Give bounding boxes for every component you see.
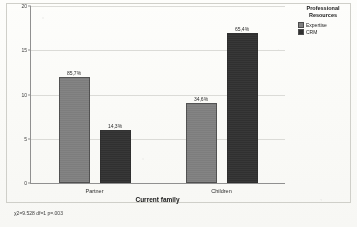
expertise-swatch-icon bbox=[298, 22, 304, 28]
legend-title-line-1: Professional bbox=[292, 5, 354, 12]
y-axis-tick-mark bbox=[28, 50, 31, 51]
y-axis-tick-label: 5 bbox=[24, 136, 27, 142]
bar-crm-partner[interactable]: 14,3% bbox=[100, 130, 131, 183]
legend-item-expertise[interactable]: Expertise bbox=[298, 22, 354, 28]
bar-value-label: 65,4% bbox=[235, 26, 249, 32]
y-axis-tick-mark bbox=[28, 183, 31, 184]
bar-crm-children[interactable]: 65,4% bbox=[227, 33, 258, 183]
bar-chart: 0510152085,7%14,3%Partner34,6%65,4%Child… bbox=[0, 0, 357, 227]
plot-area: 0510152085,7%14,3%Partner34,6%65,4%Child… bbox=[30, 6, 285, 184]
legend-item-label: CRM bbox=[306, 29, 317, 35]
y-axis-tick-label: 10 bbox=[21, 92, 27, 98]
y-axis-tick-mark bbox=[28, 138, 31, 139]
legend-title-line-2: Resources bbox=[292, 12, 354, 19]
bar-value-label: 85,7% bbox=[67, 70, 81, 76]
bar-value-label: 34,6% bbox=[194, 96, 208, 102]
legend-title: Professional Resources bbox=[292, 5, 354, 19]
y-axis-tick-label: 15 bbox=[21, 47, 27, 53]
legend-item-crm[interactable]: CRM bbox=[298, 29, 354, 35]
y-axis-tick-label: 0 bbox=[24, 180, 27, 186]
bar-value-label: 14,3% bbox=[108, 123, 122, 129]
x-axis-tick-label: Partner bbox=[85, 188, 103, 194]
y-axis-tick-label: 20 bbox=[21, 3, 27, 9]
bar-expertise-children[interactable]: 34,6% bbox=[186, 103, 217, 183]
x-axis-title: Current family bbox=[30, 196, 285, 203]
y-axis-tick-mark bbox=[28, 6, 31, 7]
statistics-footnote: χ2=9.528 df=1 p=.003 bbox=[14, 210, 63, 216]
bar-expertise-partner[interactable]: 85,7% bbox=[59, 77, 90, 183]
legend-item-label: Expertise bbox=[306, 22, 327, 28]
gridline bbox=[31, 6, 285, 7]
y-axis-tick-mark bbox=[28, 94, 31, 95]
x-axis-tick-label: Children bbox=[211, 188, 231, 194]
legend: Professional Resources Expertise CRM bbox=[292, 5, 354, 36]
crm-swatch-icon bbox=[298, 29, 304, 35]
